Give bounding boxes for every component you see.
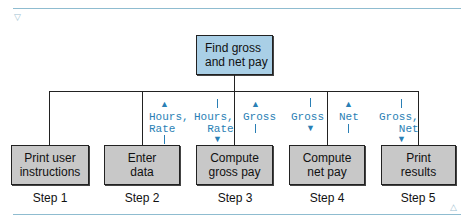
flow-tick [401, 99, 402, 108]
module-enter-data: Enterdata [104, 145, 180, 185]
module-print-user-instructions: Print userinstructions [11, 145, 89, 185]
module-compute-gross-pay: Computegross pay [196, 145, 273, 185]
module-label: Enter [128, 151, 157, 165]
flow-tick [164, 135, 165, 144]
module-label: data [128, 165, 157, 179]
step-label-3: Step 3 [197, 191, 273, 205]
arrow-down-icon: ▼ [306, 124, 315, 133]
flow-net-up: Net [339, 111, 359, 123]
flow-hours-rate-down: Hours, Rate [194, 111, 234, 135]
bottom-rule [13, 214, 461, 215]
root-module-find-gross-and-net-pay: Find gross and net pay [196, 35, 273, 75]
flow-tick [348, 124, 349, 133]
flow-tick [217, 99, 218, 108]
top-triangle-icon: ▽ [14, 13, 21, 22]
step-label-4: Step 4 [289, 191, 365, 205]
flow-tick [310, 98, 311, 107]
module-label: instructions [20, 165, 81, 179]
arrow-up-icon: ▲ [251, 100, 260, 109]
step-label-5: Step 5 [380, 191, 456, 205]
flow-gross-down: Gross [291, 111, 324, 123]
module-label: net pay [303, 165, 352, 179]
arrow-down-icon: ▼ [397, 135, 406, 144]
module-label: Print [401, 151, 436, 165]
flow-gross-net-down: Gross, Net [379, 111, 419, 135]
step-label-2: Step 2 [104, 191, 180, 205]
arrow-down-icon: ▼ [213, 135, 222, 144]
connector-step1 [49, 91, 50, 145]
connector-step3 [234, 91, 235, 145]
module-label: results [401, 165, 436, 179]
module-label: Compute [208, 151, 260, 165]
step-label-1: Step 1 [12, 191, 88, 205]
module-compute-net-pay: Computenet pay [289, 145, 365, 185]
flow-gross-up: Gross [243, 111, 276, 123]
module-label: Compute [303, 151, 352, 165]
module-label: Print user [20, 151, 81, 165]
arrow-up-icon: ▲ [344, 100, 353, 109]
flow-hours-rate-up: Hours, Rate [149, 111, 189, 135]
arrow-up-icon: ▲ [160, 100, 169, 109]
module-print-results: Printresults [381, 145, 456, 185]
root-label-line1: Find gross [205, 41, 268, 55]
root-connector [234, 75, 235, 91]
connector-step4 [327, 91, 328, 145]
module-label: gross pay [208, 165, 260, 179]
connector-step2 [142, 91, 143, 145]
root-label-line2: and net pay [205, 55, 268, 69]
flow-tick [255, 124, 256, 133]
top-rule [13, 8, 461, 9]
